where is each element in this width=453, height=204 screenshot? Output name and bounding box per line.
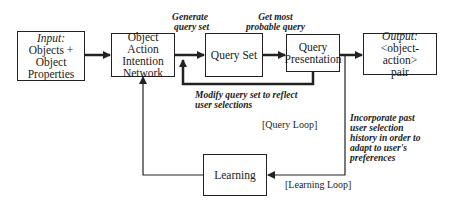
query-presentation-line-1: Query	[299, 41, 328, 53]
incorporate-line-3: history in order to	[350, 133, 420, 143]
output-title: Output:	[382, 30, 418, 42]
output-line-1: <object-action>	[364, 42, 436, 66]
learning-loop-label: [Learning Loop]	[285, 179, 351, 190]
learning-loop-line	[268, 55, 345, 175]
learning-to-network-line	[143, 77, 203, 175]
generate-query-set-label: Generate query set	[171, 12, 209, 32]
input-line-2: Object	[36, 56, 67, 68]
learning-node: Learning	[203, 154, 267, 196]
generate-line-2: query set	[171, 22, 209, 32]
output-node: Output: <object-action> pair	[363, 33, 437, 75]
input-line-1: Objects +	[29, 44, 74, 56]
query-set-node: Query Set	[205, 33, 263, 77]
incorporate-line-2: user selection	[350, 123, 420, 133]
query-loop-label: [Query Loop]	[262, 119, 317, 130]
incorporate-history-label: Incorporate past user selection history …	[350, 113, 420, 163]
modify-query-set-label: Modify query set to reflect user selecti…	[195, 90, 297, 110]
output-line-2: pair	[391, 66, 409, 78]
get-most-probable-query-label: Get most probable query	[246, 12, 305, 32]
modify-line-1: Modify query set to reflect	[195, 90, 297, 100]
input-node: Input: Objects + Object Properties	[17, 31, 85, 81]
incorporate-line-4: adapt to user's	[350, 143, 420, 153]
query-presentation-node: Query Presentation	[286, 34, 340, 72]
network-line-3: Network	[123, 67, 163, 79]
incorporate-line-1: Incorporate past	[350, 113, 420, 123]
input-line-3: Properties	[28, 68, 75, 80]
learning-label: Learning	[214, 169, 256, 181]
object-action-intention-network-node: Object Action Intention Network	[111, 33, 175, 77]
incorporate-line-5: preferences	[350, 153, 420, 163]
input-title: Input:	[37, 32, 65, 44]
modify-line-2: user selections	[195, 100, 297, 110]
get-most-line-2: probable query	[246, 22, 305, 32]
network-line-1: Object Action	[112, 31, 174, 55]
query-presentation-line-2: Presentation	[285, 53, 342, 65]
query-set-label: Query Set	[211, 49, 257, 61]
get-most-line-1: Get most	[246, 12, 305, 22]
network-line-2: Intention	[122, 55, 164, 67]
generate-line-1: Generate	[171, 12, 209, 22]
